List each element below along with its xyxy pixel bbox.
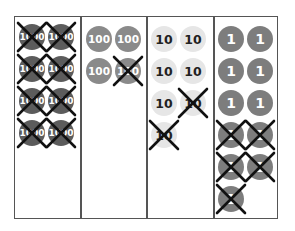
disk-label: 1000 [19, 96, 44, 106]
disk-label: 10 [184, 32, 201, 47]
disk-label: 100 [117, 65, 139, 77]
disk-1000-crossed: 1000 [19, 56, 45, 82]
disk-1000-crossed: 1000 [48, 88, 74, 114]
column-divider-thousands-hundreds [80, 16, 82, 219]
disk-1-crossed: 1 [247, 154, 273, 180]
disk-label: 10 [184, 64, 201, 79]
disk-1: 1 [247, 58, 273, 84]
disk-10: 10 [151, 26, 177, 52]
disk-label: 1 [255, 63, 265, 79]
disk-label: 1000 [19, 128, 44, 138]
disk-10-crossed: 10 [151, 122, 177, 148]
disk-100: 100 [115, 26, 141, 52]
disk-label: 1000 [48, 32, 73, 42]
disk-1: 1 [247, 90, 273, 116]
disk-100: 100 [86, 26, 112, 52]
disk-label: 10 [155, 96, 172, 111]
disk-label: 1000 [48, 96, 73, 106]
disk-label: 1 [226, 159, 236, 175]
disk-10-crossed: 10 [180, 90, 206, 116]
column-divider-hundreds-tens [146, 16, 148, 219]
disk-1000-crossed: 1000 [19, 24, 45, 50]
disk-1: 1 [218, 90, 244, 116]
disk-label: 10 [155, 64, 172, 79]
disk-1000-crossed: 1000 [19, 88, 45, 114]
disk-1: 1 [218, 58, 244, 84]
disk-label: 1 [255, 127, 265, 143]
disk-1-crossed: 1 [218, 186, 244, 212]
disk-label: 10 [155, 128, 172, 143]
disk-label: 100 [117, 33, 139, 45]
disk-label: 1 [255, 31, 265, 47]
disk-label: 1 [226, 191, 236, 207]
disk-label: 1 [226, 31, 236, 47]
disk-label: 10 [184, 96, 201, 111]
disk-10: 10 [151, 58, 177, 84]
disk-1-crossed: 1 [247, 122, 273, 148]
disk-1-crossed: 1 [218, 154, 244, 180]
disk-label: 1000 [48, 128, 73, 138]
disk-10: 10 [180, 58, 206, 84]
disk-label: 1 [255, 95, 265, 111]
disk-1000-crossed: 1000 [48, 120, 74, 146]
disk-label: 1 [226, 95, 236, 111]
disk-label: 100 [88, 33, 110, 45]
disk-label: 1 [255, 159, 265, 175]
disk-1: 1 [218, 26, 244, 52]
disk-label: 1000 [19, 32, 44, 42]
disk-1000-crossed: 1000 [48, 56, 74, 82]
disk-1: 1 [247, 26, 273, 52]
disk-label: 1000 [19, 64, 44, 74]
disk-10: 10 [151, 90, 177, 116]
disk-1000-crossed: 1000 [48, 24, 74, 50]
disk-1-crossed: 1 [218, 122, 244, 148]
column-divider-tens-ones [213, 16, 215, 219]
disk-label: 1000 [48, 64, 73, 74]
disk-label: 10 [155, 32, 172, 47]
disk-label: 1 [226, 63, 236, 79]
disk-100-crossed: 100 [115, 58, 141, 84]
disk-100: 100 [86, 58, 112, 84]
disk-label: 1 [226, 127, 236, 143]
disk-label: 100 [88, 65, 110, 77]
disk-10: 10 [180, 26, 206, 52]
disk-1000-crossed: 1000 [19, 120, 45, 146]
